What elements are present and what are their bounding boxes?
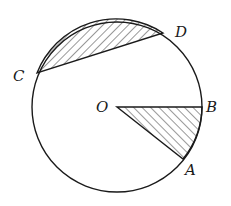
circle-diagram: O B A C D — [0, 0, 231, 206]
label-d: D — [174, 23, 187, 41]
label-o: O — [96, 98, 108, 116]
label-b: B — [205, 98, 217, 116]
label-a: A — [183, 161, 196, 179]
label-c: C — [13, 67, 25, 85]
